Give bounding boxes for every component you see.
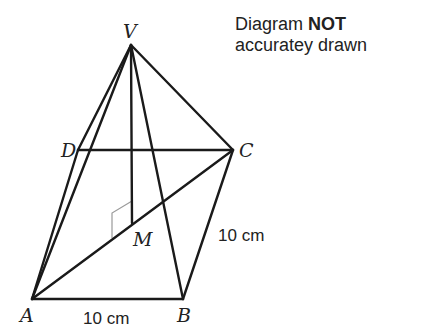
note-line-1: Diagram NOT: [235, 14, 367, 35]
vertex-label-C: C: [239, 139, 254, 161]
vertex-label-D: D: [60, 139, 76, 161]
edge-VM-height: [131, 45, 132, 223]
note-line-2: accuratey drawn: [235, 35, 367, 56]
vertex-label-M: M: [132, 228, 153, 250]
not-to-scale-note: Diagram NOT accuratey drawn: [235, 14, 367, 56]
dimension-label-AB: 10 cm: [83, 309, 129, 328]
dimension-label-BC: 10 cm: [218, 226, 264, 245]
note-line-1-text: Diagram: [235, 14, 303, 34]
edge-VC: [131, 45, 233, 150]
edge-BC: [183, 150, 233, 299]
edge-VD: [78, 45, 131, 150]
vertex-label-A: A: [18, 304, 34, 326]
edge-DA: [32, 150, 78, 299]
note-line-1-bold: NOT: [308, 14, 346, 34]
edge-VB: [131, 45, 183, 299]
vertex-label-B: B: [176, 304, 191, 326]
vertex-label-V: V: [123, 20, 139, 42]
